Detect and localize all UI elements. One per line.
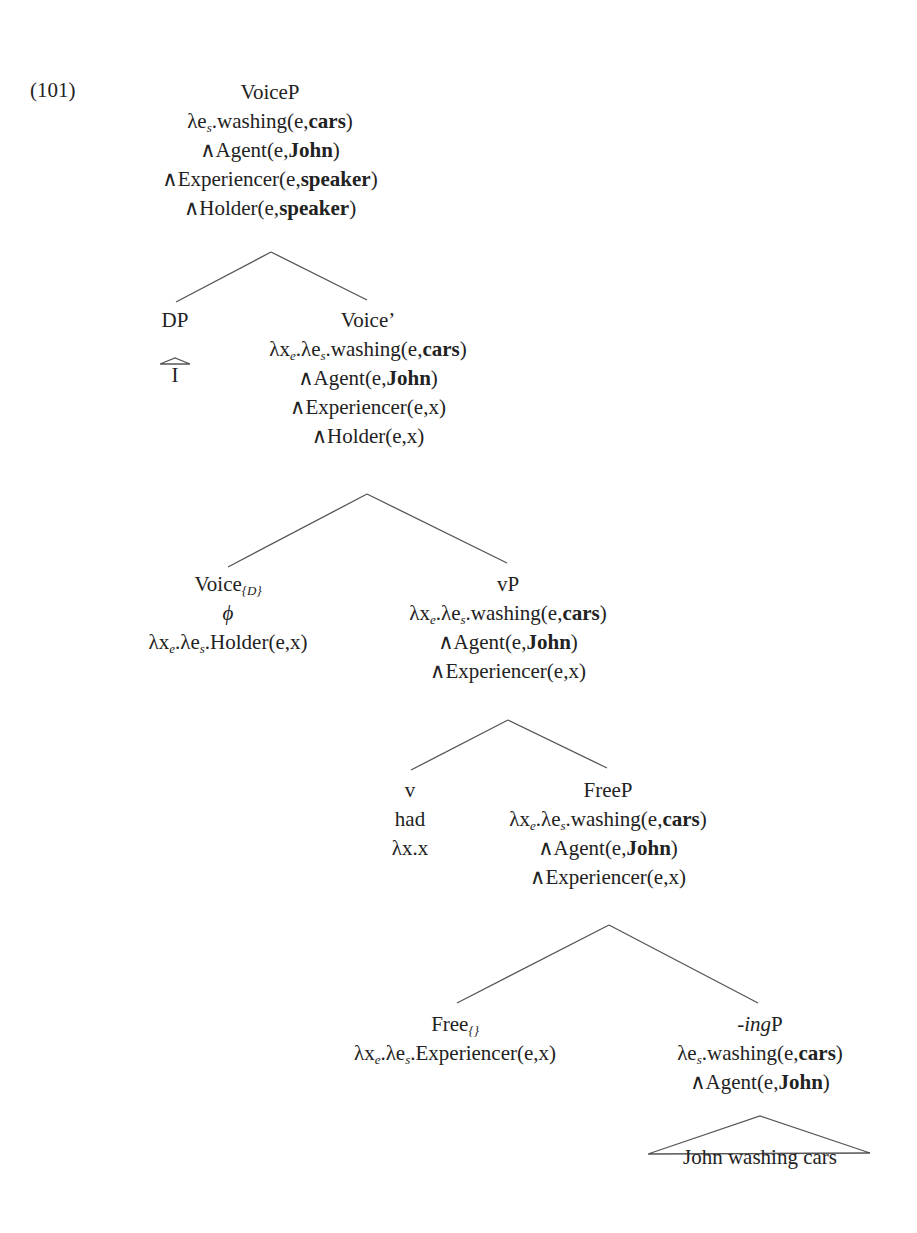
semantic-line: λxe.λes.Holder(e,x) [98,628,358,657]
node-semantics: λxe.λes.Experiencer(e,x) [300,1039,610,1068]
semantic-line: ∧Experiencer(e,x) [458,863,758,892]
semantic-line: ∧Experiencer(e,x) [218,393,518,422]
semantic-line: ∧Agent(e,John) [218,364,518,393]
semantic-line: λes.washing(e,cars) [640,1039,880,1068]
node-ingP: -ingP λes.washing(e,cars)∧Agent(e,John) … [640,1010,880,1172]
semantic-line: ∧Experiencer(e,x) [358,657,658,686]
node-freeP: FreeP λxe.λes.washing(e,cars)∧Agent(e,Jo… [458,776,758,892]
branch-voicebar-vP [367,494,507,563]
node-semantics: λxe.λes.washing(e,cars)∧Agent(e,John)∧Ex… [218,335,518,451]
node-dp: DP I [140,306,210,390]
branch-voicebar-voiceD [228,494,367,567]
node-label: Voice’ [218,306,518,335]
node-label: DP [140,306,210,335]
terminal-phrase: John washing cars [640,1143,880,1172]
semantic-line: λxe.λes.washing(e,cars) [218,335,518,364]
semantic-line: ∧Agent(e,John) [458,834,758,863]
semantic-line: ∧Experiencer(e,speaker) [120,165,420,194]
node-label: v [370,776,450,805]
semantic-line: λxe.λes.Experiencer(e,x) [300,1039,610,1068]
semantic-line: λxe.λes.washing(e,cars) [358,599,658,628]
example-number: (101) [30,78,76,103]
branch-voiceP-voicebar [271,252,367,300]
branch-voiceP-dp [176,252,271,302]
semantic-line: had [370,805,450,834]
node-label: VoiceP [120,78,420,107]
node-semantics: λxe.λes.washing(e,cars)∧Agent(e,John)∧Ex… [458,805,758,892]
terminal-word: I [140,361,210,390]
node-semantics: hadλx.x [370,805,450,863]
node-label: FreeP [458,776,758,805]
node-free: Free{} λxe.λes.Experiencer(e,x) [300,1010,610,1068]
node-semantics: ϕλxe.λes.Holder(e,x) [98,599,358,657]
node-label: Voice{D} [98,570,358,599]
semantic-line: ϕ [98,599,358,628]
semantic-line: λes.washing(e,cars) [120,107,420,136]
semantic-line: ∧Agent(e,John) [120,136,420,165]
branch-vP-freeP [508,720,607,768]
node-voice-d: Voice{D} ϕλxe.λes.Holder(e,x) [98,570,358,657]
semantic-line: λxe.λes.washing(e,cars) [458,805,758,834]
semantic-line: ∧Holder(e,speaker) [120,194,420,223]
node-voice-bar: Voice’ λxe.λes.washing(e,cars)∧Agent(e,J… [218,306,518,451]
node-semantics: λes.washing(e,cars)∧Agent(e,John) [640,1039,880,1097]
semantic-line: λx.x [370,834,450,863]
branch-freeP-free [457,925,609,1003]
branch-freeP-ingP [609,925,758,1003]
semantic-line: ∧Agent(e,John) [358,628,658,657]
node-semantics: λes.washing(e,cars)∧Agent(e,John)∧Experi… [120,107,420,223]
node-label: Free{} [300,1010,610,1039]
node-vP: vP λxe.λes.washing(e,cars)∧Agent(e,John)… [358,570,658,686]
node-semantics: λxe.λes.washing(e,cars)∧Agent(e,John)∧Ex… [358,599,658,686]
semantic-line: ∧Holder(e,x) [218,422,518,451]
node-v: v hadλx.x [370,776,450,863]
node-label: -ingP [640,1010,880,1039]
node-label: vP [358,570,658,599]
branch-vP-v [411,720,508,770]
node-voiceP: VoiceP λes.washing(e,cars)∧Agent(e,John)… [120,78,420,223]
syntax-tree-diagram: (101) VoiceP λes.washing(e,cars)∧Agent(e… [0,0,917,1233]
semantic-line: ∧Agent(e,John) [640,1068,880,1097]
